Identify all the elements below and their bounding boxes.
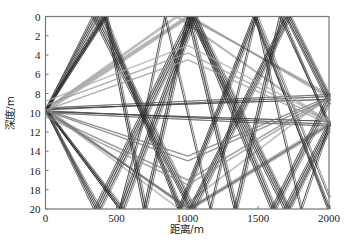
- x-axis-label: 距离/m: [170, 223, 204, 235]
- y-tick-label: 0: [35, 11, 41, 23]
- y-tick-label: 6: [35, 68, 41, 80]
- ray-paths: [46, 17, 331, 210]
- y-tick-label: 18: [30, 184, 42, 196]
- ray-path-chart: 02468101214161820 0500100015002000 距离/m …: [0, 0, 355, 245]
- y-axis-label: 深度/m: [4, 96, 16, 130]
- y-tick-label: 16: [30, 165, 42, 177]
- y-tick-label: 8: [35, 88, 41, 100]
- x-tick-label: 1500: [247, 212, 270, 224]
- y-tick-label: 2: [35, 30, 41, 42]
- x-tick-label: 2000: [318, 212, 341, 224]
- y-tick-label: 10: [30, 107, 42, 119]
- ray-surf1-c-twin: [47, 17, 331, 112]
- x-tick-label: 0: [43, 212, 49, 224]
- y-tick-label: 4: [35, 49, 41, 61]
- y-tick-label: 20: [30, 203, 42, 215]
- y-tick-label: 14: [30, 145, 42, 157]
- y-tick-label: 12: [30, 126, 41, 138]
- x-tick-label: 500: [108, 212, 125, 224]
